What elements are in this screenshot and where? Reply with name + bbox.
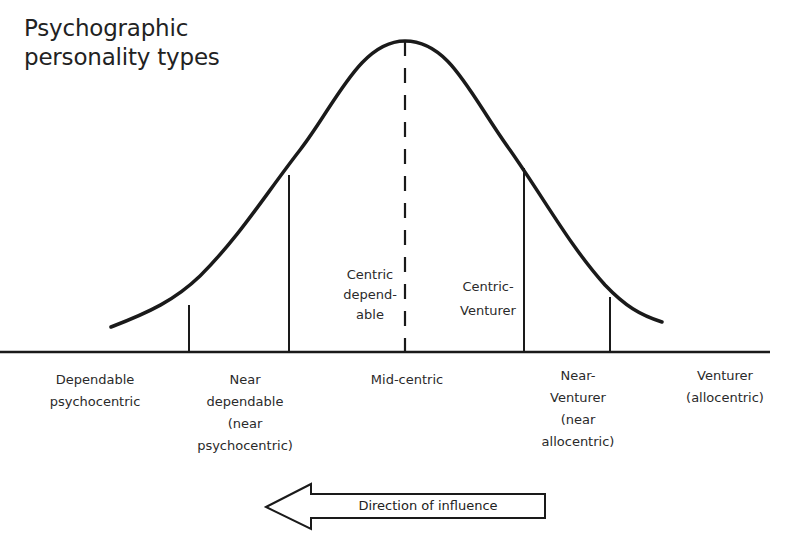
direction-of-influence-label: Direction of influence xyxy=(322,497,534,515)
segment-near-dependable: Near dependable (near psychocentric) xyxy=(190,369,300,457)
segment-venturer: Venturer (allocentric) xyxy=(670,365,780,409)
segment-dependable: Dependable psychocentric xyxy=(40,369,150,413)
segment-near-venturer: Near- Venturer (near allocentric) xyxy=(528,365,628,453)
segment-mid-centric: Mid-centric xyxy=(352,369,462,391)
label-centric-dependable: Centric depend- able xyxy=(340,265,400,325)
label-centric-venturer: Centric- Venturer xyxy=(452,275,524,323)
